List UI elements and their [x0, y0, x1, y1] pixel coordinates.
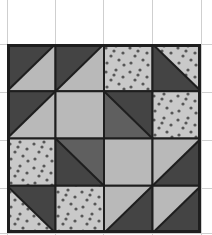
quilt-cell-r0c0 — [7, 44, 56, 91]
solid-square — [56, 91, 105, 138]
dotted-square — [7, 139, 56, 186]
quilt-cell-r2c3 — [153, 139, 202, 186]
dotted-square — [56, 186, 105, 233]
dotted-square — [104, 44, 153, 91]
quilt-cell-r1c2 — [104, 91, 153, 138]
quilt-cell-r1c0 — [7, 91, 56, 138]
quilt-cell-r0c3 — [153, 44, 202, 91]
quilt-cell-r3c0 — [7, 186, 56, 233]
quilt-block — [7, 44, 201, 233]
quilt-block-svg — [7, 44, 201, 233]
quilt-cell-r3c3 — [153, 186, 202, 233]
quilt-cell-r3c1 — [56, 186, 105, 233]
quilt-cell-r2c0 — [7, 139, 56, 186]
quilt-cell-r1c1 — [56, 91, 105, 138]
quilt-cell-r3c2 — [104, 186, 153, 233]
quilt-cell-r0c1 — [56, 44, 105, 91]
quilt-cell-r1c3 — [153, 91, 202, 138]
quilt-cell-r0c2 — [104, 44, 153, 91]
dotted-square — [153, 91, 202, 138]
quilt-cell-r2c2 — [104, 139, 153, 186]
solid-square — [104, 139, 153, 186]
quilt-cell-r2c1 — [56, 139, 105, 186]
